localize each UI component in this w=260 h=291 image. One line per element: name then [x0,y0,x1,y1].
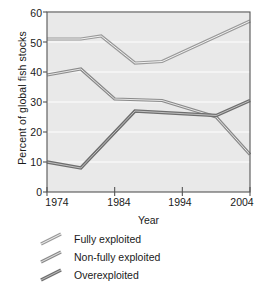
line-swatch-icon [38,267,64,283]
legend-item-overexploited: Overexploited [38,266,160,284]
x-axis-title: Year [47,214,250,226]
chart-legend: Fully exploited Non-fully exploited Over… [38,230,160,284]
legend-label: Fully exploited [74,233,141,245]
chart-figure: Percent of global fish stocks 60 50 40 3… [0,0,260,291]
legend-label: Non-fully exploited [74,251,160,263]
legend-item-fully-exploited: Fully exploited [38,230,160,248]
line-swatch-icon [38,231,64,247]
x-tick-label: 1994 [160,196,200,208]
legend-label: Overexploited [74,269,139,281]
legend-item-non-fully-exploited: Non-fully exploited [38,248,160,266]
x-tick-label: 2004 [222,196,260,208]
x-tick-label: 1984 [99,196,139,208]
x-tick-label: 1974 [37,196,77,208]
line-swatch-icon [38,249,64,265]
